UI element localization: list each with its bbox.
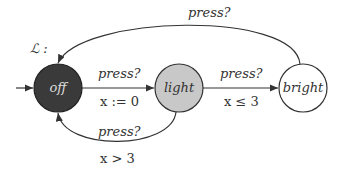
edge-light-bright-action: press? (220, 66, 264, 81)
state-bright-label: bright (283, 80, 324, 95)
edge-bright-off-action: press? (188, 5, 232, 20)
state-off-label: off (49, 80, 69, 95)
state-off: off (34, 64, 82, 112)
automaton-diagram: ℒ : press? press? x := 0 press? x ≤ 3 pr… (0, 0, 343, 171)
edge-light-off-guard: x > 3 (100, 151, 135, 166)
automaton-name: ℒ : (30, 41, 48, 56)
edge-off-light-action: press? (98, 66, 142, 81)
state-light: light (155, 64, 203, 112)
edge-bright-off (58, 25, 300, 64)
edge-light-off-action: press? (98, 124, 142, 139)
state-bright: bright (279, 64, 327, 112)
edge-light-bright-guard: x ≤ 3 (224, 94, 259, 109)
edge-off-light-update: x := 0 (100, 94, 139, 109)
state-light-label: light (164, 80, 195, 95)
